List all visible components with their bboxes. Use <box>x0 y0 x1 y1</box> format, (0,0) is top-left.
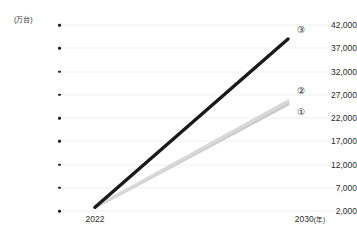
x-axis-tick-label-end: 2030(年) <box>295 214 325 224</box>
plot-area <box>0 0 357 236</box>
x-axis-unit-label: (年) <box>314 216 325 223</box>
series-line <box>95 101 288 207</box>
line-chart: (万台) 2,0007,00012,00017,00022,00027,0003… <box>0 0 357 236</box>
series-end-label: ② <box>297 87 305 96</box>
x-axis-end-year: 2030 <box>295 214 314 224</box>
x-axis-tick-label-start: 2022 <box>86 214 105 224</box>
series-end-label: ① <box>297 108 305 117</box>
series-end-label: ③ <box>297 25 305 34</box>
series-line <box>95 39 288 207</box>
